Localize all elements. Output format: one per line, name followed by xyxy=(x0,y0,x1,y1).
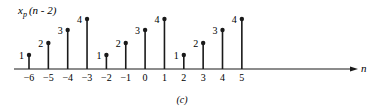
value-label: 3 xyxy=(58,25,63,36)
value-label: 1 xyxy=(174,50,179,61)
tick-label: 4 xyxy=(220,72,225,83)
tick-label: −5 xyxy=(43,72,54,83)
value-label: 4 xyxy=(77,14,82,25)
stem-marker xyxy=(66,28,70,32)
stems-group: 123412341234 xyxy=(19,14,244,69)
value-label: 1 xyxy=(96,50,101,61)
stem-marker xyxy=(162,17,166,21)
stem-marker xyxy=(201,41,205,45)
value-label: 2 xyxy=(38,38,43,49)
tick-label: 2 xyxy=(181,72,186,83)
value-label: 4 xyxy=(232,14,237,25)
x-axis-label: n xyxy=(361,62,367,74)
tick-label: −6 xyxy=(24,72,35,83)
stem-marker xyxy=(240,17,244,21)
stem-marker xyxy=(46,41,50,45)
stem-plot: xp(n - 2) 123412341234 n −6−5−4−3−2−1012… xyxy=(0,0,372,110)
value-label: 4 xyxy=(154,14,159,25)
stem-marker xyxy=(220,28,224,32)
tick-label: −4 xyxy=(62,72,73,83)
tick-labels-group: −6−5−4−3−2−1012345 xyxy=(24,72,245,83)
x-axis-arrow-icon xyxy=(350,67,358,72)
chart-title: xp(n - 2) xyxy=(17,4,57,19)
tick-label: 1 xyxy=(162,72,167,83)
tick-label: 5 xyxy=(239,72,244,83)
tick-label: 3 xyxy=(201,72,206,83)
tick-label: 0 xyxy=(143,72,148,83)
tick-label: −3 xyxy=(82,72,93,83)
stem-marker xyxy=(182,53,186,57)
tick-label: −2 xyxy=(101,72,112,83)
value-label: 3 xyxy=(135,25,140,36)
value-label: 2 xyxy=(116,38,121,49)
stem-marker xyxy=(104,53,108,57)
figure-caption: (c) xyxy=(176,94,188,106)
stem-marker xyxy=(124,41,128,45)
value-label: 1 xyxy=(19,50,24,61)
value-label: 2 xyxy=(193,38,198,49)
stem-marker xyxy=(85,17,89,21)
stem-marker xyxy=(27,53,31,57)
tick-label: −1 xyxy=(120,72,131,83)
stem-marker xyxy=(143,28,147,32)
value-label: 3 xyxy=(213,25,218,36)
